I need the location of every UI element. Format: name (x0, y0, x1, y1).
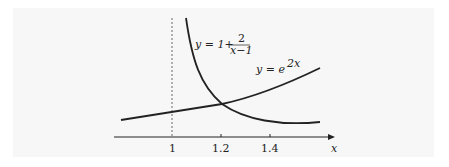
tick-label-1-2: 1.2 (212, 142, 230, 155)
hyperbola-denominator: x−1 (230, 44, 252, 57)
chart: y = 1+ 2 x−1 y = e 2x 1 1.2 1.4 x (0, 0, 449, 167)
exp-power: 2x (286, 57, 301, 70)
exp-curve (121, 68, 320, 120)
tick-label-1-4: 1.4 (261, 142, 279, 155)
x-axis-label: x (331, 142, 338, 155)
x-axis-arrow-icon (328, 134, 335, 140)
hyperbola-label: y = 1+ (194, 38, 234, 51)
exp-label: y = e (255, 63, 285, 76)
tick-label-1: 1 (169, 142, 176, 155)
